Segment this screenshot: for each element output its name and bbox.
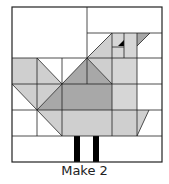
leg-right (93, 136, 99, 162)
quilt-block-diagram (0, 0, 169, 184)
belly (62, 110, 112, 136)
body-dark (62, 84, 112, 110)
breast-lower (112, 110, 137, 136)
head-column (112, 33, 137, 110)
leg-left (74, 136, 80, 162)
caption: Make 2 (0, 163, 169, 178)
patches (12, 33, 150, 136)
wing-square (12, 58, 37, 84)
